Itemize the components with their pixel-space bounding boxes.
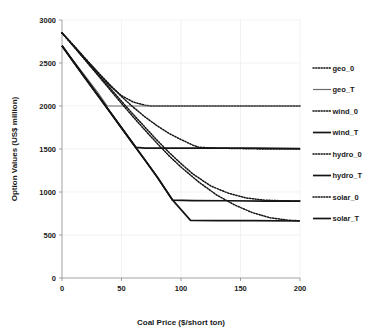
y-axis-tick-labels: 050010001500200025003000	[39, 16, 56, 283]
y-axis-title: Option Values (US$ million)	[10, 96, 19, 201]
x-axis-title: Coal Price ($/short ton)	[137, 318, 225, 327]
x-tick-label: 50	[117, 284, 125, 293]
legend-label-wind_0: wind_0	[332, 107, 358, 116]
y-tick-label: 2500	[39, 59, 56, 68]
x-tick-label: 200	[294, 284, 307, 293]
y-tick-label: 1000	[39, 188, 56, 197]
line-chart: 050010001500200025003000 050100150200 ge…	[0, 0, 383, 334]
chart-legend: geo_0geo_Twind_0wind_Thydro_0hydro_Tsola…	[313, 64, 363, 224]
legend-label-hydro_0: hydro_0	[333, 150, 362, 159]
x-axis-tick-labels: 050100150200	[60, 284, 306, 293]
y-tick-label: 0	[52, 274, 56, 283]
x-tick-label: 100	[175, 284, 188, 293]
y-tick-label: 1500	[39, 145, 56, 154]
legend-label-geo_0: geo_0	[333, 64, 355, 73]
legend-label-geo_T: geo_T	[333, 85, 356, 94]
chart-container: 050010001500200025003000 050100150200 ge…	[0, 0, 383, 334]
legend-label-hydro_T: hydro_T	[333, 171, 363, 180]
y-tick-label: 2000	[39, 102, 56, 111]
y-tick-label: 3000	[39, 16, 56, 25]
x-tick-label: 150	[234, 284, 247, 293]
axes	[59, 20, 300, 281]
x-tick-label: 0	[60, 284, 64, 293]
legend-label-solar_0: solar_0	[333, 193, 359, 202]
y-tick-label: 500	[43, 231, 56, 240]
legend-label-wind_T: wind_T	[332, 128, 359, 137]
legend-label-solar_T: solar_T	[333, 214, 360, 223]
